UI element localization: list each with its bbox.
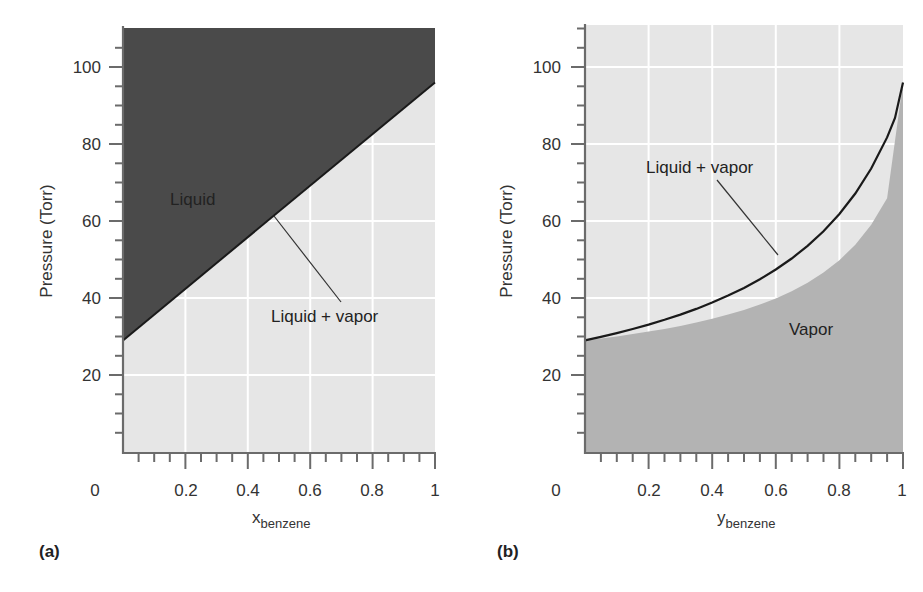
- panel-b-y-minor-ticks: [577, 29, 585, 433]
- panel-b: 100 80 60 40 20 0 0.2 0.4 0.6 0.8 1 Pres…: [497, 24, 907, 561]
- panel-b-x-tick-0.6: 0.6: [764, 481, 788, 500]
- panel-b-x-tick-1: 1: [897, 481, 906, 500]
- panel-b-x-tick-0.2: 0.2: [637, 481, 661, 500]
- panel-a-x-tick-0.4: 0.4: [236, 481, 260, 500]
- panel-b-x-axis-title: ybenzene: [717, 508, 775, 531]
- panel-b-y-major-ticks: [571, 67, 585, 375]
- panel-a-y-tick-80: 80: [82, 135, 101, 154]
- panel-a-x-major-ticks: [185, 453, 435, 469]
- panel-b-two-phase-label: Liquid + vapor: [646, 158, 754, 177]
- panel-b-y-tick-20: 20: [542, 366, 561, 385]
- panel-b-x-axis-sub: benzene: [726, 516, 776, 531]
- panel-a-x-tick-0.2: 0.2: [174, 481, 198, 500]
- phase-diagram-figure: 100 80 60 40 20 0 0.2 0.4 0.6 0.8 1 Pres…: [0, 0, 923, 592]
- panel-a-label: (a): [39, 542, 60, 561]
- panel-b-x-tick-0.8: 0.8: [827, 481, 851, 500]
- panel-b-x-major-ticks: [649, 453, 903, 469]
- panel-b-y-tick-40: 40: [542, 289, 561, 308]
- panel-a-y-tick-20: 20: [82, 366, 101, 385]
- panel-a-x-tick-1: 1: [430, 481, 439, 500]
- panel-a-two-phase-label: Liquid + vapor: [271, 307, 379, 326]
- panel-a-y-major-ticks: [109, 67, 123, 375]
- panel-b-y-axis-title: Pressure (Torr): [497, 184, 516, 297]
- panel-a-y-tick-40: 40: [82, 289, 101, 308]
- panel-a-liquid-label: Liquid: [170, 190, 215, 209]
- panel-b-vapor-label: Vapor: [789, 320, 833, 339]
- panel-a-y-axis-title: Pressure (Torr): [37, 184, 56, 297]
- panel-a-x-axis-sub: benzene: [261, 516, 311, 531]
- panel-b-label: (b): [497, 542, 519, 561]
- panel-a-y-tick-60: 60: [82, 212, 101, 231]
- panel-b-x-tick-0.4: 0.4: [700, 481, 724, 500]
- panel-a-x-minor-ticks: [139, 453, 420, 462]
- panel-a-origin-label: 0: [90, 481, 99, 500]
- panel-a-x-tick-0.6: 0.6: [298, 481, 322, 500]
- panel-b-y-tick-80: 80: [542, 135, 561, 154]
- panel-b-origin-label: 0: [551, 481, 560, 500]
- panel-b-y-tick-100: 100: [533, 58, 561, 77]
- panel-a-y-tick-100: 100: [73, 58, 101, 77]
- panel-a-x-axis-title: xbenzene: [252, 508, 310, 531]
- panel-a: 100 80 60 40 20 0 0.2 0.4 0.6 0.8 1 Pres…: [37, 26, 440, 561]
- panel-a-x-tick-0.8: 0.8: [360, 481, 384, 500]
- panel-b-y-tick-60: 60: [542, 212, 561, 231]
- panel-b-x-minor-ticks: [601, 453, 887, 462]
